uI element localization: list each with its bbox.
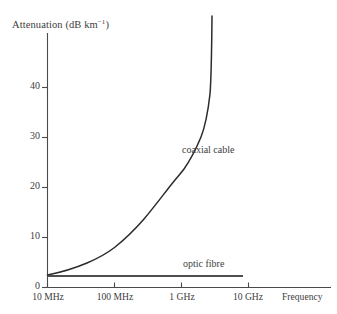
series-label-optic-fibre: optic fibre	[183, 259, 224, 269]
y-axis-title-close: )	[105, 19, 109, 30]
y-tick-label-30: 30	[14, 131, 40, 141]
x-tick-label-100mhz: 100 MHz	[83, 292, 147, 302]
y-tick-label-40: 40	[14, 81, 40, 91]
plot-canvas	[0, 0, 337, 314]
y-axis-title: Attenuation (dB km−1)	[12, 20, 109, 31]
y-tick-label-20: 20	[14, 181, 40, 191]
x-tick-label-10ghz: 10 GHz	[218, 292, 278, 302]
series-label-coaxial-cable: coaxial cable	[182, 145, 234, 155]
y-axis-title-main: Attenuation (dB km	[12, 19, 98, 30]
x-axis-ticks	[48, 283, 249, 288]
y-tick-label-0: 0	[14, 281, 40, 291]
x-axis-title: Frequency	[282, 292, 323, 302]
x-tick-label-1ghz: 1 GHz	[155, 292, 209, 302]
y-axis-ticks	[42, 88, 48, 288]
attenuation-vs-frequency-chart: Attenuation (dB km−1) 40 30 20 10 0 10 M…	[0, 0, 337, 314]
y-tick-label-10: 10	[14, 231, 40, 241]
x-tick-label-10mhz: 10 MHz	[20, 292, 76, 302]
